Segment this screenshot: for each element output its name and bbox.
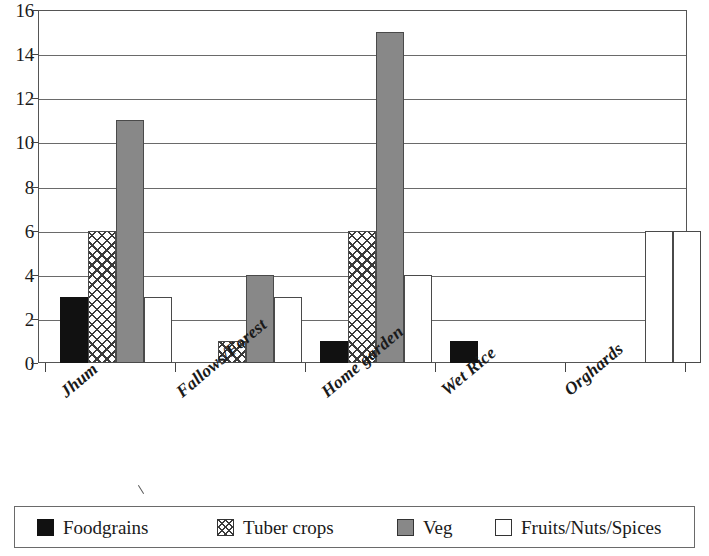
y-tickmark: [31, 142, 38, 143]
bar: [673, 231, 701, 363]
x-tickmark: [565, 363, 566, 372]
bar: [88, 231, 116, 363]
plot-area: 1614121086420 JhumFallows/ForestHome gar…: [0, 0, 709, 485]
legend-swatch-icon: [495, 519, 512, 536]
bar: [645, 231, 673, 363]
y-axis: 1614121086420: [0, 0, 34, 368]
legend-label: Veg: [423, 518, 453, 537]
x-tickmark: [45, 363, 46, 372]
bar-chart: 1614121086420 JhumFallows/ForestHome gar…: [0, 0, 709, 556]
legend-label: Fruits/Nuts/Spices: [521, 518, 661, 537]
y-tickmark: [31, 319, 38, 320]
stray-pen-mark: [138, 485, 144, 494]
y-tickmark: [31, 98, 38, 99]
x-tickmark: [435, 363, 436, 372]
y-tickmark: [31, 275, 38, 276]
bar: [320, 341, 348, 363]
x-tickmark: [685, 363, 686, 372]
bar: [404, 275, 432, 363]
y-tickmark: [31, 363, 38, 364]
y-tickmark: [31, 54, 38, 55]
legend-label: Foodgrains: [63, 518, 149, 537]
legend-swatch-icon: [397, 519, 414, 536]
y-tickmark: [31, 231, 38, 232]
legend-swatch-icon: [217, 519, 234, 536]
x-tickmark: [305, 363, 306, 372]
legend: FoodgrainsTuber cropsVegFruits/Nuts/Spic…: [14, 506, 695, 548]
x-axis-labels: JhumFallows/ForestHome gardenWet RiceOrg…: [0, 372, 709, 472]
legend-item-foodgrains[interactable]: Foodgrains: [37, 518, 149, 537]
bar: [376, 32, 404, 363]
y-tickmark: [31, 10, 38, 11]
bars-layer: [38, 10, 687, 363]
x-tickmark: [175, 363, 176, 372]
bar: [116, 120, 144, 363]
bar: [144, 297, 172, 363]
legend-swatch-icon: [37, 519, 54, 536]
bar: [60, 297, 88, 363]
legend-label: Tuber crops: [243, 518, 334, 537]
legend-item-veg[interactable]: Veg: [397, 518, 453, 537]
legend-item-tuber[interactable]: Tuber crops: [217, 518, 334, 537]
y-tickmark: [31, 187, 38, 188]
bar: [274, 297, 302, 363]
legend-item-fruits[interactable]: Fruits/Nuts/Spices: [495, 518, 661, 537]
